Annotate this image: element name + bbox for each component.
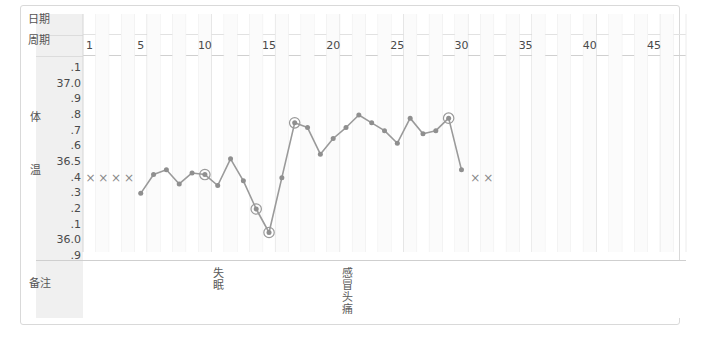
x-tick-label: 1 bbox=[79, 39, 99, 52]
menstruation-x-marker: × bbox=[124, 172, 134, 184]
remark-annotation: 感冒头痛 bbox=[340, 267, 352, 315]
x-tick-label: 40 bbox=[580, 39, 600, 52]
remark-annotation: 失眠 bbox=[212, 267, 224, 291]
menstruation-x-marker: × bbox=[98, 172, 108, 184]
x-tick-label: 10 bbox=[195, 39, 215, 52]
menstruation-x-marker: × bbox=[483, 172, 493, 184]
chart-frame: 日期 周期 体 温 备注 .137.0.9.8.7.636.5.4.3.2.13… bbox=[20, 5, 680, 325]
y-tick-label: 37.0 bbox=[35, 77, 81, 90]
y-tick-label: .3 bbox=[35, 186, 81, 199]
y-axis-labels: .137.0.9.8.7.636.5.4.3.2.136.0.9 bbox=[31, 56, 81, 256]
x-tick-label: 30 bbox=[451, 39, 471, 52]
remark-row-label: 备注 bbox=[29, 274, 51, 290]
x-tick-label: 5 bbox=[131, 39, 151, 52]
y-tick-label: .7 bbox=[35, 124, 81, 137]
y-tick-label: .8 bbox=[35, 108, 81, 121]
y-tick-label: 36.5 bbox=[35, 155, 81, 168]
x-tick-label: 25 bbox=[387, 39, 407, 52]
menstruation-x-marker: × bbox=[111, 172, 121, 184]
y-tick-label: .2 bbox=[35, 202, 81, 215]
y-tick-label: .4 bbox=[35, 171, 81, 184]
x-tick-label: 35 bbox=[516, 39, 536, 52]
y-tick-label: .1 bbox=[35, 218, 81, 231]
bbt-chart-page: 日期 周期 体 温 备注 .137.0.9.8.7.636.5.4.3.2.13… bbox=[0, 0, 702, 351]
x-tick-label: 20 bbox=[323, 39, 343, 52]
remarks-row: 失眠感冒头痛 bbox=[83, 260, 686, 318]
date-row-label: 日期 bbox=[28, 10, 50, 26]
cycle-row-label: 周期 bbox=[28, 31, 50, 47]
x-tick-label: 45 bbox=[644, 39, 664, 52]
y-tick-label: 36.0 bbox=[35, 233, 81, 246]
y-tick-label: .9 bbox=[35, 249, 81, 262]
y-tick-label: .1 bbox=[35, 61, 81, 74]
x-tick-label: 15 bbox=[259, 39, 279, 52]
y-tick-label: .6 bbox=[35, 139, 81, 152]
menstruation-x-marker: × bbox=[470, 172, 480, 184]
y-tick-label: .9 bbox=[35, 92, 81, 105]
menstruation-x-marker: × bbox=[85, 172, 95, 184]
